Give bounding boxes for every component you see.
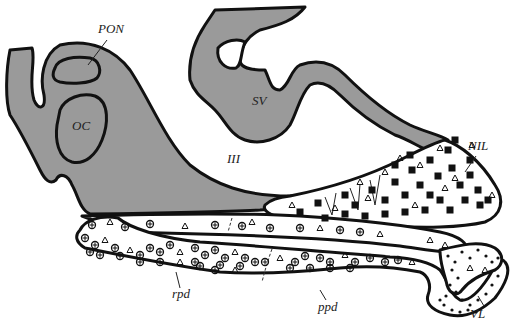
square-symbol [449,165,456,172]
square-symbol [342,211,349,218]
dot-symbol [468,256,471,259]
square-symbol [402,209,409,216]
dot-symbol [456,276,459,279]
label-iii: III [226,151,241,166]
dot-symbol [438,298,441,301]
supraoptic-ventricle-region [190,7,448,150]
label-ppd: ppd [317,299,338,314]
label-vl: VL [470,306,485,321]
square-symbol [447,207,454,214]
square-symbol [392,162,399,169]
label-sv: SV [252,93,269,108]
sv-cleft [218,40,245,68]
square-symbol [462,197,469,204]
square-symbol [427,157,434,164]
dot-symbol [460,250,463,253]
square-symbol [427,192,434,199]
square-symbol [352,202,359,209]
dot-symbol [450,308,453,311]
square-symbol [382,211,389,218]
square-symbol [445,147,452,154]
dot-symbol [490,260,493,263]
square-symbol [322,215,329,222]
dot-symbol [484,254,487,257]
square-symbol [435,173,442,180]
square-symbol [437,197,444,204]
square-symbol [362,213,369,220]
diagram: PON OC SV III NIL rpd ppd VL [0,0,517,323]
dot-symbol [484,292,487,295]
dot-symbol [450,268,453,271]
square-symbol [369,187,376,194]
square-symbol [475,187,482,194]
square-symbol [392,179,399,186]
dot-symbol [460,298,463,301]
square-symbol [467,157,474,164]
label-oc: OC [72,118,90,133]
square-symbol [409,167,416,174]
label-rpd: rpd [172,286,191,301]
square-symbol [467,172,474,179]
dot-symbol [454,290,457,293]
dot-symbol [490,283,493,286]
dot-symbol [476,298,479,301]
square-symbol [297,209,304,216]
square-symbol [342,192,349,199]
pon-nucleus [53,57,99,83]
square-symbol [382,197,389,204]
dot-symbol [476,248,479,251]
square-symbol [417,182,424,189]
label-pon: PON [97,21,125,36]
dot-symbol [458,310,461,313]
dot-symbol [444,294,447,297]
dot-symbol [448,283,451,286]
dot-symbol [496,274,499,277]
dot-symbol [453,260,456,263]
square-symbol [402,192,409,199]
square-symbol [452,137,459,144]
dot-symbol [496,256,499,259]
square-symbol [407,152,414,159]
square-symbol [315,200,322,207]
square-symbol [477,202,484,209]
dot-symbol [442,303,445,306]
square-symbol [422,207,429,214]
square-symbol [457,182,464,189]
dot-symbol [446,254,449,257]
label-nil: NIL [467,138,488,153]
